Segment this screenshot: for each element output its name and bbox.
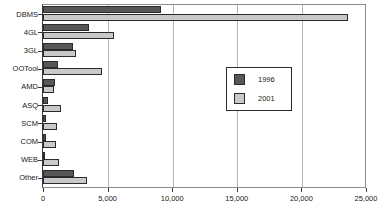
- y-axis-label-dbms: DBMS: [0, 5, 40, 23]
- y-tick-ootool: [38, 69, 42, 70]
- bar-web-1996: [43, 152, 45, 159]
- y-tick-scm: [38, 123, 42, 124]
- bar-group-web: [43, 151, 366, 169]
- x-axis-label-5000: 5,000: [98, 194, 117, 203]
- bar-3gl-1996: [43, 43, 73, 50]
- bar-group-ootool: [43, 60, 366, 78]
- legend-label-1996: 1996: [258, 75, 275, 84]
- bar-group-asq: [43, 96, 366, 114]
- y-axis-label-amd: AMD: [0, 78, 40, 96]
- legend-swatch-1996-icon: [234, 74, 245, 85]
- y-axis-label-com: COM: [0, 132, 40, 150]
- y-axis-label-other: Other: [0, 169, 40, 187]
- bar-scm-1996: [43, 115, 46, 122]
- y-tick-3gl: [38, 51, 42, 52]
- bar-dbms-1996: [43, 6, 161, 13]
- legend-swatch-2001-icon: [234, 93, 245, 104]
- x-axis-label-0: 0: [41, 194, 45, 203]
- bar-other-2001: [43, 177, 87, 184]
- bar-asq-2001: [43, 105, 61, 112]
- x-tick-10000: [172, 188, 173, 192]
- bar-asq-1996: [43, 97, 48, 104]
- bar-ootool-2001: [43, 68, 102, 75]
- bar-group-dbms: [43, 5, 366, 23]
- y-axis-label-3gl: 3GL: [0, 41, 40, 59]
- x-axis-label-25000: 25,000: [355, 194, 378, 203]
- bar-group-other: [43, 169, 366, 187]
- x-tick-15000: [237, 188, 238, 192]
- y-axis-label-4gl: 4GL: [0, 23, 40, 41]
- bar-rows: [43, 5, 366, 187]
- y-axis-label-scm: SCM: [0, 114, 40, 132]
- x-axis-label-20000: 20,000: [290, 194, 313, 203]
- y-tick-amd: [38, 87, 42, 88]
- y-tick-com: [38, 142, 42, 143]
- bar-group-4gl: [43, 23, 366, 41]
- bar-amd-2001: [43, 86, 54, 93]
- bar-other-1996: [43, 170, 74, 177]
- y-axis-labels: DBMS 4GL 3GL OOTool AMD ASQ SCM COM WEB …: [0, 5, 40, 187]
- x-tick-5000: [108, 188, 109, 192]
- x-tick-0: [43, 188, 44, 192]
- x-axis-label-10000: 10,000: [161, 194, 184, 203]
- bar-amd-1996: [43, 79, 55, 86]
- bar-com-1996: [43, 134, 46, 141]
- bar-scm-2001: [43, 123, 57, 130]
- bar-com-2001: [43, 141, 56, 148]
- bar-chart: DBMS 4GL 3GL OOTool AMD ASQ SCM COM WEB …: [0, 0, 383, 216]
- bar-ootool-1996: [43, 61, 58, 68]
- bar-group-com: [43, 132, 366, 150]
- y-axis-label-ootool: OOTool: [0, 60, 40, 78]
- legend: 1996 2001: [226, 67, 292, 111]
- bar-3gl-2001: [43, 50, 76, 57]
- bar-4gl-1996: [43, 24, 89, 31]
- bar-group-scm: [43, 114, 366, 132]
- y-tick-asq: [38, 105, 42, 106]
- y-axis-label-asq: ASQ: [0, 96, 40, 114]
- y-tick-4gl: [38, 32, 42, 33]
- bar-dbms-2001: [43, 14, 348, 21]
- x-axis-label-15000: 15,000: [225, 194, 248, 203]
- bar-web-2001: [43, 159, 59, 166]
- y-tick-dbms: [38, 14, 42, 15]
- bar-4gl-2001: [43, 32, 114, 39]
- bar-group-3gl: [43, 41, 366, 59]
- legend-item-1996: 1996: [234, 74, 275, 85]
- legend-label-2001: 2001: [258, 94, 275, 103]
- y-axis-label-web: WEB: [0, 151, 40, 169]
- x-tick-20000: [301, 188, 302, 192]
- y-tick-web: [38, 160, 42, 161]
- bar-group-amd: [43, 78, 366, 96]
- y-tick-other: [38, 178, 42, 179]
- x-tick-25000: [366, 188, 367, 192]
- legend-item-2001: 2001: [234, 93, 275, 104]
